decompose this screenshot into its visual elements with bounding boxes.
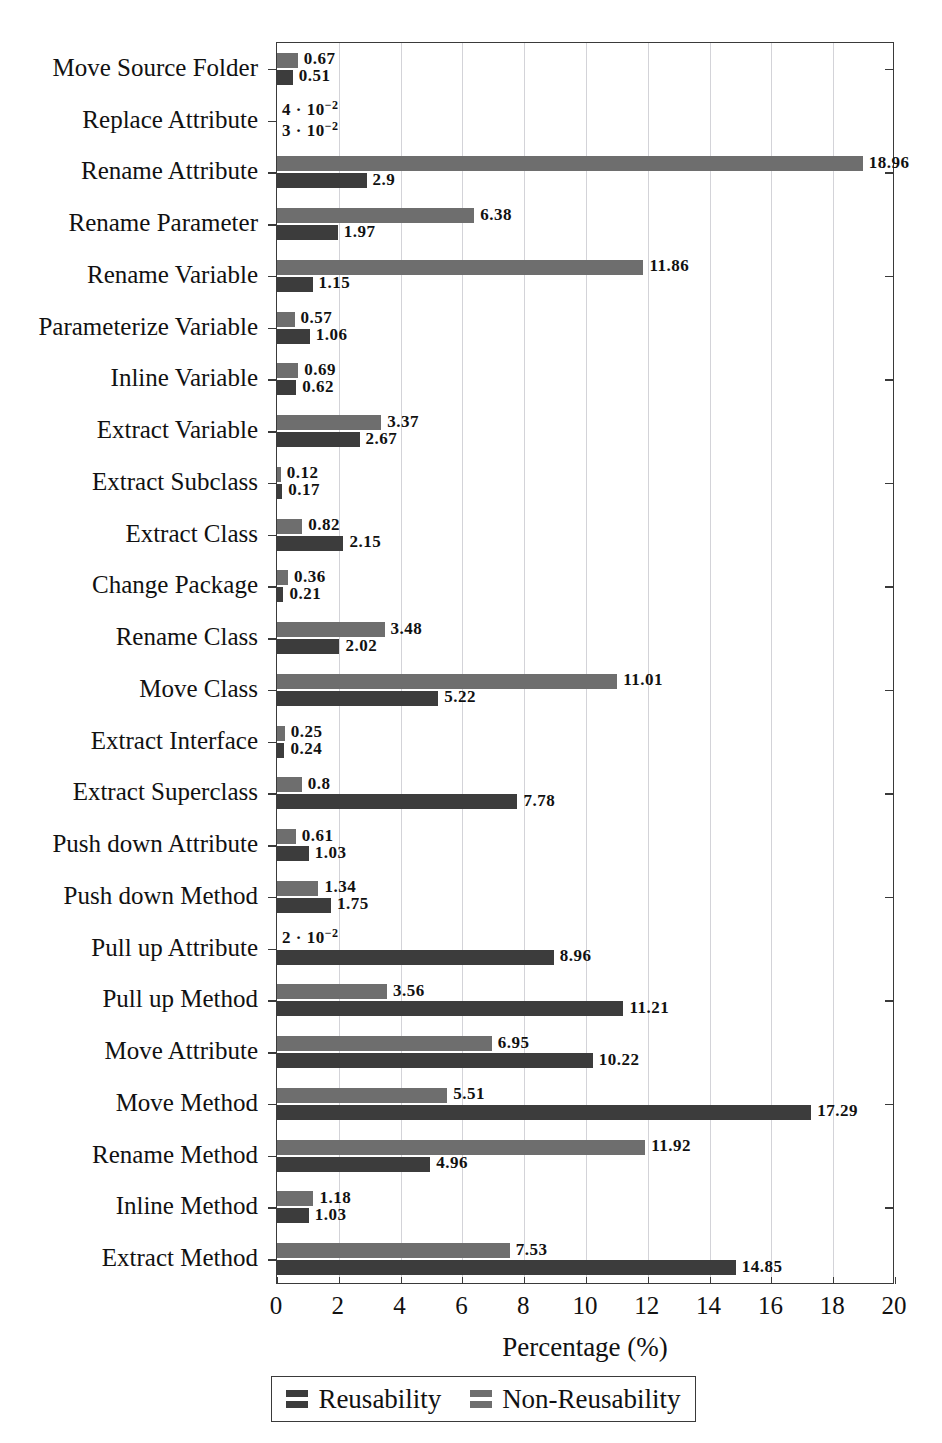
y-axis-category-label: Move Attribute [8,1037,258,1065]
x-axis-tick-label: 16 [758,1292,783,1320]
chart-gridline [833,43,834,1283]
x-axis-tick [648,1277,649,1284]
chart-gridline [524,43,525,1283]
bar-reusability [277,173,367,188]
bar-value-label-reusability: 1.03 [315,843,347,863]
y-axis-tick-right [885,897,894,898]
bar-value-label-reusability: 1.15 [319,273,351,293]
x-axis-tick [895,1277,896,1284]
bar-value-label-reusability: 17.29 [817,1101,858,1121]
bar-reusability [277,794,517,809]
chart-page: Percentage (%) Reusability Non-Reusabili… [0,0,942,1443]
x-axis-tick-label: 14 [696,1292,721,1320]
x-axis-tick-label: 20 [882,1292,907,1320]
y-axis-tick [268,276,277,277]
chart-gridline [586,43,587,1283]
bar-reusability [277,380,296,395]
bar-reusability [277,1001,623,1016]
x-axis-tick [339,1277,340,1284]
x-axis-tick [833,1277,834,1284]
bar-non-reusability [277,467,281,482]
y-axis-tick [268,535,277,536]
bar-reusability [277,691,438,706]
bar-reusability [277,484,282,499]
bar-value-label-non-reusability: 4 · 10−2 [282,98,339,121]
bar-value-label-reusability: 7.78 [523,791,555,811]
y-axis-category-label: Extract Interface [8,727,258,755]
y-axis-category-label: Inline Variable [8,364,258,392]
bar-value-label-reusability: 0.51 [299,66,331,86]
bar-value-label-non-reusability: 11.86 [649,256,689,276]
bar-reusability [277,1105,811,1120]
y-axis-tick-right [885,793,894,794]
y-axis-category-label: Extract Method [8,1244,258,1272]
bar-value-label-reusability: 2.67 [366,429,398,449]
bar-non-reusability [277,519,302,534]
y-axis-category-label: Push down Attribute [8,830,258,858]
chart-gridline [710,43,711,1283]
bar-reusability [277,1260,736,1275]
bar-value-label-non-reusability: 6.38 [480,205,512,225]
y-axis-tick [268,431,277,432]
bar-reusability [277,846,309,861]
bar-non-reusability [277,363,298,378]
x-axis-tick [710,1277,711,1284]
legend-item-reusability[interactable]: Reusability [286,1384,441,1415]
y-axis-tick-right [885,276,894,277]
bar-value-label-non-reusability: 2 · 10−2 [282,926,339,949]
y-axis-tick [268,172,277,173]
y-axis-tick [268,1156,277,1157]
bar-value-label-reusability: 2.02 [345,636,377,656]
bar-reusability [277,1208,309,1223]
bar-value-label-non-reusability: 5.51 [453,1084,485,1104]
y-axis-tick-right [885,379,894,380]
bar-non-reusability [277,53,298,68]
y-axis-tick [268,638,277,639]
x-axis-tick-label: 0 [270,1292,283,1320]
x-axis-tick-label: 10 [573,1292,598,1320]
y-axis-tick [268,1052,277,1053]
bar-reusability [277,743,284,758]
bar-value-label-reusability: 1.03 [315,1205,347,1225]
bar-reusability [277,1157,430,1172]
bar-value-label-reusability: 0.24 [290,739,322,759]
bar-non-reusability [277,777,302,792]
bar-value-label-non-reusability: 11.01 [623,670,663,690]
bar-non-reusability [277,829,296,844]
y-axis-tick [268,1000,277,1001]
y-axis-category-label: Move Class [8,675,258,703]
chart-legend: Reusability Non-Reusability [271,1376,696,1422]
bar-value-label-non-reusability: 0.8 [308,774,331,794]
legend-label-non-reusability: Non-Reusability [502,1384,680,1415]
y-axis-tick [268,845,277,846]
bar-non-reusability [277,1191,313,1206]
x-axis-tick-label: 12 [634,1292,659,1320]
x-axis-tick-label: 4 [393,1292,406,1320]
bar-value-label-reusability: 14.85 [742,1257,783,1277]
y-axis-category-label: Extract Superclass [8,778,258,806]
y-axis-category-label: Extract Subclass [8,468,258,496]
bar-value-label-non-reusability: 7.53 [516,1240,548,1260]
bar-value-label-reusability: 2.15 [349,532,381,552]
legend-swatch-non-reusability [470,1390,492,1408]
bar-reusability [277,432,360,447]
bar-value-label-reusability: 4.96 [436,1153,468,1173]
bar-reusability [277,898,331,913]
y-axis-category-label: Move Method [8,1089,258,1117]
x-axis-tick-label: 18 [820,1292,845,1320]
y-axis-category-label: Rename Attribute [8,157,258,185]
y-axis-tick-right [885,69,894,70]
y-axis-tick [268,483,277,484]
bar-non-reusability [277,570,288,585]
y-axis-category-label: Pull up Method [8,985,258,1013]
legend-item-non-reusability[interactable]: Non-Reusability [470,1384,680,1415]
y-axis-tick [268,742,277,743]
x-axis-title: Percentage (%) [276,1332,894,1363]
y-axis-tick-right [885,1104,894,1105]
bar-value-label-non-reusability: 11.92 [651,1136,691,1156]
y-axis-tick [268,1104,277,1105]
bar-reusability [277,277,313,292]
bar-non-reusability [277,312,295,327]
x-axis-tick [586,1277,587,1284]
legend-label-reusability: Reusability [318,1384,441,1415]
